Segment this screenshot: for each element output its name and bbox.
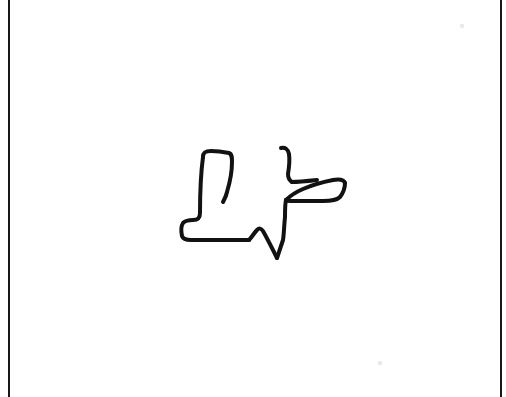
hook-hand [281, 148, 292, 182]
page-canvas: Hand-drawn outline sketch on white paper [0, 0, 506, 397]
faint-mark-lower-right [378, 361, 382, 365]
faint-mark-upper-right [460, 24, 464, 28]
boot-left-wall-and-foot [181, 157, 249, 240]
hand-drawn-sketch [0, 0, 506, 397]
sketch-stroke-group [181, 148, 345, 258]
boot-body [203, 151, 232, 202]
v-notch [277, 200, 286, 258]
hook-stem [292, 180, 317, 182]
ankle-notch [249, 229, 277, 258]
